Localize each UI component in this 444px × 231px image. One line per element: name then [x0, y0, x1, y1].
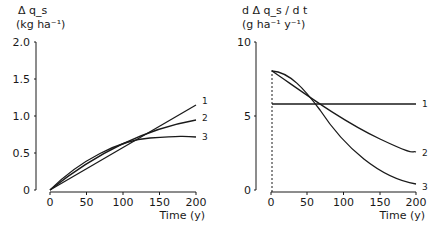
right-ylabel-line1: d Δ q_s / d t [242, 4, 308, 17]
figure: Δ q_s (kg ha⁻¹) 2.0 1.5 1.0 0.5 0 0 50 1… [0, 0, 444, 231]
left-xtick: 0 [47, 196, 54, 209]
left-ytick: 2.0 [13, 36, 31, 49]
left-chart: Δ q_s (kg ha⁻¹) 2.0 1.5 1.0 0.5 0 0 50 1… [13, 4, 208, 222]
right-curve-3 [272, 71, 416, 184]
right-ytick: 0 [244, 184, 251, 197]
right-xtick: 50 [300, 196, 314, 209]
right-curve-label-3: 3 [422, 182, 428, 192]
left-curve-label-2: 2 [202, 113, 208, 123]
left-ytick: 1.0 [13, 110, 31, 123]
right-y-ticks: 10 5 0 [237, 36, 256, 197]
right-xtick: 0 [268, 196, 275, 209]
left-x-ticks: 0 50 100 150 200 [47, 192, 207, 209]
right-curve-label-1: 1 [422, 99, 428, 109]
left-ytick: 1.5 [13, 73, 31, 86]
right-xtick: 150 [370, 196, 391, 209]
right-xtick: 200 [406, 196, 427, 209]
left-ylabel-line1: Δ q_s [18, 4, 48, 17]
right-xlabel: Time (y) [378, 209, 425, 222]
right-ytick: 10 [237, 36, 251, 49]
left-curve-label-1: 1 [202, 96, 208, 106]
right-chart: d Δ q_s / d t (g ha⁻¹ y⁻¹) 10 5 0 0 50 1… [237, 4, 428, 222]
left-ylabel-line2: (kg ha⁻¹) [16, 18, 65, 31]
right-ytick: 5 [244, 110, 251, 123]
right-x-ticks: 0 50 100 150 200 [268, 192, 427, 209]
left-xtick: 200 [186, 196, 207, 209]
left-ytick: 0 [23, 184, 30, 197]
left-curve-label-3: 3 [202, 132, 208, 142]
right-curve-label-2: 2 [422, 148, 428, 158]
left-curve-1 [50, 105, 196, 190]
left-curve-2 [50, 120, 196, 190]
left-y-ticks: 2.0 1.5 1.0 0.5 0 [13, 36, 37, 197]
right-ylabel-line2: (g ha⁻¹ y⁻¹) [242, 18, 305, 31]
left-ytick: 0.5 [13, 147, 31, 160]
left-xlabel: Time (y) [158, 209, 205, 222]
left-xtick: 100 [113, 196, 134, 209]
right-xtick: 100 [333, 196, 354, 209]
left-xtick: 50 [80, 196, 94, 209]
left-xtick: 150 [149, 196, 170, 209]
